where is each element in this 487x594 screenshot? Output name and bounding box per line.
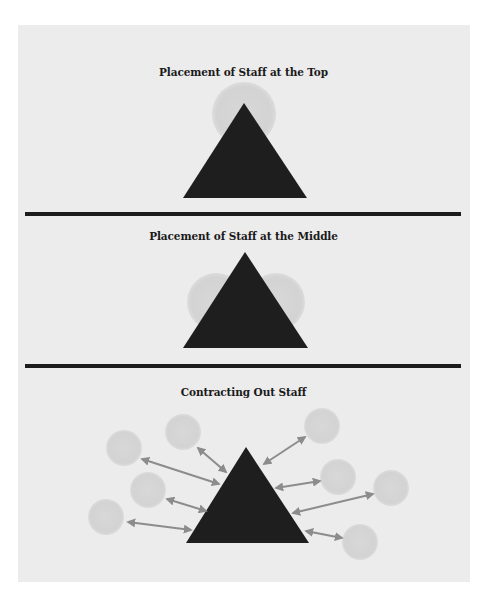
staff-circle <box>106 430 142 466</box>
staff-circle <box>373 470 409 506</box>
staff-circle <box>130 472 166 508</box>
staff-circle <box>165 414 201 450</box>
organization-triangles <box>183 103 309 543</box>
staff-circle <box>342 524 378 560</box>
organization-triangle <box>186 447 309 543</box>
organization-triangle <box>183 103 307 198</box>
staff-circle <box>320 459 356 495</box>
diagram-art <box>0 0 487 594</box>
double-arrow-icon <box>198 448 226 472</box>
double-arrow-icon <box>306 531 342 538</box>
staff-circle <box>304 408 340 444</box>
double-arrow-icon <box>128 522 191 530</box>
double-arrow-icon <box>276 481 320 488</box>
double-arrow-icon <box>293 494 373 513</box>
double-arrow-icon <box>167 499 206 511</box>
staff-circle <box>88 499 124 535</box>
double-arrow-icon <box>264 437 305 464</box>
